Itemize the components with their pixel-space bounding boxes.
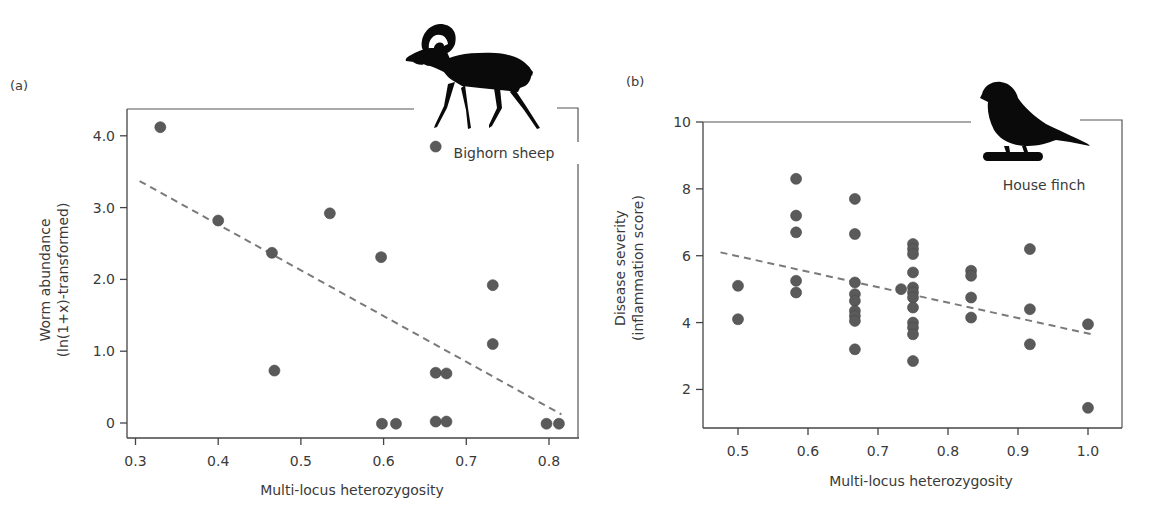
panel-b-data-point bbox=[1024, 244, 1035, 255]
panel-b-label: (b) bbox=[626, 74, 644, 89]
panel-a-data-point bbox=[553, 418, 564, 429]
panel-b-trendline bbox=[721, 252, 1092, 334]
panel-a-y-ticks: 01.02.03.04.0 bbox=[93, 128, 127, 431]
panel-a-y-tick-label: 0 bbox=[106, 415, 115, 431]
panel-b-data-point bbox=[849, 344, 860, 355]
panel-a-data-point bbox=[213, 215, 224, 226]
panel-a-data-point bbox=[487, 339, 498, 350]
panel-a-bighorn-sheep: (a) 0.30.40.50.60.70.8 01.02.03.04.0 Mul… bbox=[10, 24, 579, 498]
panel-b-x-ticks: 0.50.60.70.80.91.0 bbox=[727, 428, 1099, 459]
panel-b-data-point bbox=[791, 275, 802, 286]
panel-b-house-finch: (b) 0.50.60.70.80.91.0 246810 Multi-locu… bbox=[612, 74, 1122, 489]
panel-a-species-label: Bighorn sheep bbox=[454, 145, 555, 161]
panel-a-x-tick-label: 0.5 bbox=[290, 453, 312, 469]
panel-a-data-point bbox=[155, 122, 166, 133]
panel-a-trendline bbox=[140, 181, 562, 414]
figure: (a) 0.30.40.50.60.70.8 01.02.03.04.0 Mul… bbox=[0, 0, 1154, 528]
panel-b-data-point bbox=[908, 267, 919, 278]
panel-b-points bbox=[733, 173, 1094, 413]
panel-b-right-frame bbox=[1080, 120, 1122, 428]
panel-a-y-axis-label: Worm abundance (ln(1+x)-transformed) bbox=[37, 203, 71, 358]
panel-b-x-axis-label: Multi-locus heterozygosity bbox=[829, 473, 1013, 489]
panel-b-x-tick-label: 0.5 bbox=[727, 443, 749, 459]
panel-b-y-axis-label-line2: (inflammation score) bbox=[630, 195, 646, 341]
panel-a-data-point bbox=[430, 367, 441, 378]
panel-b-data-point bbox=[791, 227, 802, 238]
panel-b-data-point bbox=[908, 302, 919, 313]
panel-a-points bbox=[155, 122, 565, 430]
panel-b-y-axis-label-line1: Disease severity bbox=[612, 210, 628, 326]
panel-b-data-point bbox=[849, 295, 860, 306]
panel-b-data-point bbox=[849, 277, 860, 288]
panel-a-data-point bbox=[487, 280, 498, 291]
panel-a-data-point bbox=[324, 208, 335, 219]
panel-b-data-point bbox=[1024, 339, 1035, 350]
panel-b-data-point bbox=[849, 315, 860, 326]
panel-b-x-tick-label: 1.0 bbox=[1077, 443, 1099, 459]
panel-b-data-point bbox=[1024, 304, 1035, 315]
panel-b-y-tick-label: 8 bbox=[682, 181, 691, 197]
panel-b-data-point bbox=[966, 292, 977, 303]
panel-b-x-tick-label: 0.7 bbox=[867, 443, 889, 459]
panel-b-data-point bbox=[908, 292, 919, 303]
panel-a-data-point bbox=[430, 416, 441, 427]
panel-a-y-axis-label-line2: (ln(1+x)-transformed) bbox=[55, 203, 71, 358]
panel-b-data-point bbox=[791, 173, 802, 184]
bighorn-sheep-icon bbox=[406, 24, 540, 129]
panel-a-right-frame-upper bbox=[557, 108, 578, 142]
panel-b-data-point bbox=[733, 314, 744, 325]
house-finch-icon bbox=[980, 82, 1090, 161]
panel-b-data-point bbox=[908, 329, 919, 340]
panel-a-data-point bbox=[391, 418, 402, 429]
panel-b-y-tick-label: 6 bbox=[682, 248, 691, 264]
panel-b-data-point bbox=[791, 210, 802, 221]
panel-b-x-tick-label: 0.9 bbox=[1007, 443, 1029, 459]
panel-a-x-tick-label: 0.4 bbox=[207, 453, 229, 469]
panel-b-data-point bbox=[908, 249, 919, 260]
panel-b-data-point bbox=[1083, 402, 1094, 413]
panel-a-y-tick-label: 1.0 bbox=[93, 343, 115, 359]
panel-b-y-tick-label: 4 bbox=[682, 315, 691, 331]
panel-a-x-tick-label: 0.8 bbox=[538, 453, 560, 469]
panel-a-x-tick-label: 0.6 bbox=[372, 453, 394, 469]
panel-a-y-axis-label-line1: Worm abundance bbox=[37, 218, 53, 341]
panel-b-data-point bbox=[966, 312, 977, 323]
panel-a-data-point bbox=[541, 418, 552, 429]
panel-b-data-point bbox=[849, 193, 860, 204]
panel-b-data-point bbox=[791, 287, 802, 298]
panel-b-data-point bbox=[896, 284, 907, 295]
panel-a-x-tick-label: 0.3 bbox=[124, 453, 146, 469]
panel-a-data-point bbox=[269, 365, 280, 376]
panel-b-y-ticks: 246810 bbox=[673, 114, 703, 397]
panel-b-data-point bbox=[849, 228, 860, 239]
panel-b-data-point bbox=[908, 356, 919, 367]
panel-a-x-ticks: 0.30.40.50.60.70.8 bbox=[124, 438, 560, 469]
panel-b-y-tick-label: 10 bbox=[673, 114, 691, 130]
panel-b-data-point bbox=[1083, 319, 1094, 330]
panel-a-data-point bbox=[266, 247, 277, 258]
panel-a-data-point bbox=[376, 252, 387, 263]
panel-a-data-point bbox=[376, 418, 387, 429]
panel-b-data-point bbox=[966, 270, 977, 281]
panel-a-y-tick-label: 2.0 bbox=[93, 271, 115, 287]
panel-b-y-tick-label: 2 bbox=[682, 381, 691, 397]
panel-a-data-point bbox=[430, 141, 441, 152]
panel-b-x-tick-label: 0.6 bbox=[797, 443, 819, 459]
panel-b-y-axis-label: Disease severity (inflammation score) bbox=[612, 195, 646, 341]
panel-a-data-point bbox=[441, 416, 452, 427]
panel-b-data-point bbox=[733, 280, 744, 291]
panel-b-species-label: House finch bbox=[1003, 177, 1086, 193]
panel-a-y-tick-label: 3.0 bbox=[93, 200, 115, 216]
panel-a-data-point bbox=[441, 368, 452, 379]
panel-b-x-tick-label: 0.8 bbox=[937, 443, 959, 459]
panel-a-x-tick-label: 0.7 bbox=[455, 453, 477, 469]
panel-a-x-axis-label: Multi-locus heterozygosity bbox=[260, 482, 444, 498]
panel-a-y-tick-label: 4.0 bbox=[93, 128, 115, 144]
panel-a-label: (a) bbox=[10, 78, 28, 93]
